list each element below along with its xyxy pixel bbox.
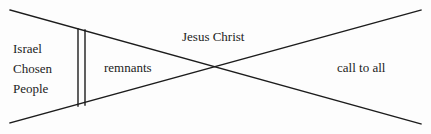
label-israel-line2: Chosen <box>13 59 52 79</box>
label-remnants: remnants <box>104 61 152 74</box>
label-jesus-christ: Jesus Christ <box>182 30 244 43</box>
label-call-to-all: call to all <box>337 61 385 74</box>
diagram-canvas: Israel Chosen People remnants Jesus Chri… <box>0 0 431 134</box>
label-israel-chosen-people: Israel Chosen People <box>13 39 52 99</box>
label-israel-line3: People <box>13 79 52 99</box>
label-israel-line1: Israel <box>13 39 52 59</box>
